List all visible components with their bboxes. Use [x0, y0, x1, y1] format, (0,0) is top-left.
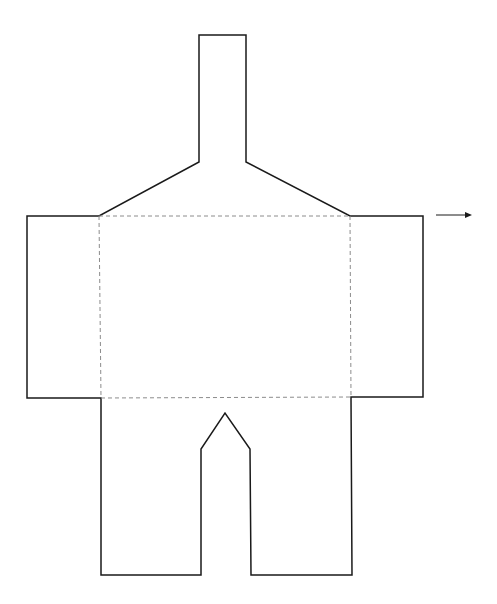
- net-diagram: [0, 0, 497, 604]
- arrow-icon: [436, 212, 472, 218]
- bottom-fold-line: [101, 397, 351, 398]
- right-fold-line: [350, 216, 351, 397]
- arrow-head: [465, 212, 472, 218]
- fold-lines: [99, 216, 351, 398]
- left-fold-line: [99, 216, 101, 398]
- net-outline: [27, 35, 423, 575]
